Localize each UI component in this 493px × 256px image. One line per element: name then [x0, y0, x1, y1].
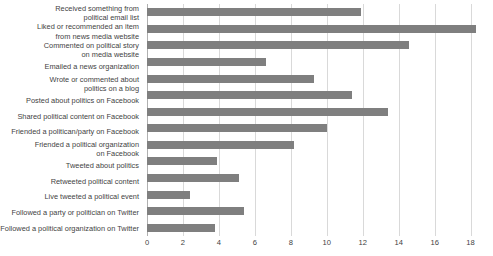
x-axis: 024681012141618 — [147, 236, 476, 252]
bar — [147, 141, 294, 149]
x-tick-label-6: 6 — [253, 238, 257, 247]
category-label: Retweeted political content — [0, 174, 143, 190]
bar-row — [147, 103, 476, 120]
bar-row — [147, 87, 476, 104]
x-tick-label-10: 10 — [323, 238, 331, 247]
bar — [147, 157, 217, 165]
bar — [147, 191, 190, 199]
x-tick-label-0: 0 — [145, 238, 149, 247]
bar-row — [147, 186, 476, 203]
bar-series — [147, 4, 476, 236]
bar — [147, 91, 352, 99]
bar-row — [147, 4, 476, 21]
x-tick-label-16: 16 — [430, 238, 438, 247]
category-label: Followed a party or politician on Twitte… — [0, 205, 143, 221]
x-tick-label-4: 4 — [217, 238, 221, 247]
x-tick-label-2: 2 — [181, 238, 185, 247]
category-label: Wrote or commented about politics on a b… — [0, 75, 143, 93]
category-label: Shared political content on Facebook — [0, 109, 143, 125]
bar — [147, 224, 215, 232]
category-label-list: Received something from political email … — [0, 4, 143, 236]
bar — [147, 108, 388, 116]
bar — [147, 207, 244, 215]
bar — [147, 25, 476, 33]
bar-row — [147, 70, 476, 87]
category-label: Tweeted about politics — [0, 158, 143, 174]
bar-row — [147, 170, 476, 187]
bar-row — [147, 54, 476, 71]
x-tick-label-18: 18 — [466, 238, 474, 247]
plot-area — [147, 4, 476, 236]
category-label: Friended a politican/party on Facebook — [0, 124, 143, 140]
category-label: Liked or recommended an item from news m… — [0, 22, 143, 40]
x-tick-label-8: 8 — [289, 238, 293, 247]
bar-row — [147, 137, 476, 154]
category-label: Posted about politics on Facebook — [0, 93, 143, 109]
category-label: Emailed a news organization — [0, 59, 143, 75]
bar — [147, 58, 266, 66]
bar-row — [147, 21, 476, 38]
bar — [147, 8, 361, 16]
bar — [147, 124, 327, 132]
bar-row — [147, 37, 476, 54]
x-tick-label-14: 14 — [394, 238, 402, 247]
category-label: Received something from political email … — [0, 4, 143, 22]
bar-row — [147, 120, 476, 137]
x-tick-label-12: 12 — [359, 238, 367, 247]
category-label: Live tweeted a political event — [0, 189, 143, 205]
horizontal-bar-chart: Received something from political email … — [0, 0, 493, 256]
bar — [147, 41, 409, 49]
bar-row — [147, 220, 476, 237]
bar-row — [147, 153, 476, 170]
bar — [147, 174, 239, 182]
category-label: Followed a political organization on Twi… — [0, 220, 143, 236]
bar-row — [147, 203, 476, 220]
category-label: Commented on political story on media we… — [0, 41, 143, 59]
bar — [147, 75, 314, 83]
category-label: Friended a political organization on Fac… — [0, 140, 143, 158]
